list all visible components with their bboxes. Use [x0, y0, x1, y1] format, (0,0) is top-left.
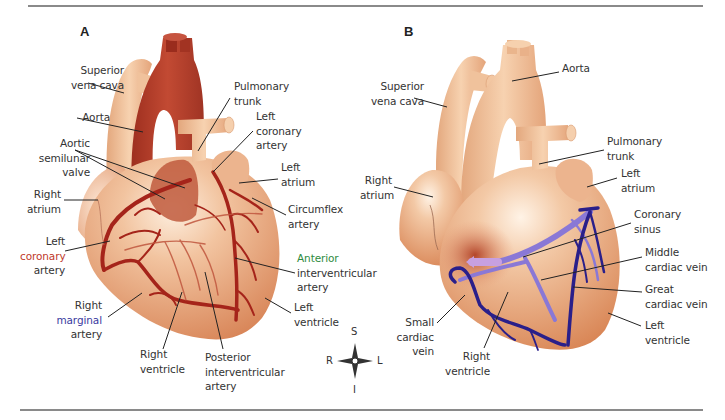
label-line: coronary [256, 124, 316, 139]
compass-superior: S [351, 326, 357, 337]
label-line: ventricle [294, 315, 354, 330]
panel-letter-a: A [80, 24, 89, 39]
label-line: coronary [20, 249, 65, 264]
label-line: atrium [281, 175, 331, 190]
label-line: ventricle [440, 364, 490, 379]
label-line: cardiac vein [645, 297, 725, 312]
label-line: Aorta [38, 110, 110, 125]
label-line: interventricular [297, 266, 387, 281]
label-line: Left [20, 234, 65, 249]
compass-left: L [377, 355, 383, 366]
label-line: Pulmonary [234, 79, 304, 94]
label-right-atrium-b: Rightatrium [360, 173, 392, 202]
label-line: atrium [621, 181, 671, 196]
compass-right: R [326, 355, 333, 366]
label-great-cardiac-vein: Greatcardiac vein [645, 282, 725, 311]
label-middle-cardiac-vein: Middlecardiac vein [645, 245, 725, 274]
label-line: cardiac vein [645, 260, 725, 275]
label-line: artery [256, 138, 316, 153]
label-right-marginal-artery: Rightmarginalartery [40, 298, 102, 342]
label-line: Superior [360, 79, 424, 94]
heart-b [399, 40, 619, 350]
label-small-cardiac-vein: Smallcardiacvein [380, 315, 434, 359]
label-left-coronary-artery-a2: Leftcoronaryartery [256, 109, 316, 153]
label-line: Circumflex [288, 202, 358, 217]
label-line: cardiac [380, 330, 434, 345]
label-line: trunk [607, 149, 677, 164]
label-line: ventricle [140, 362, 200, 377]
label-right-ventricle-a: Rightventricle [140, 347, 200, 376]
label-line: ventricle [645, 333, 705, 348]
label-line: artery [40, 327, 102, 342]
heart-coronary-figure: A B Superiorvena cavaAortaAorticsemiluna… [0, 0, 725, 420]
label-line: marginal [40, 313, 102, 328]
label-line: Anterior [297, 251, 387, 266]
label-line: sinus [634, 222, 694, 237]
label-superior-vena-cava-b: Superiorvena cava [360, 79, 424, 108]
label-superior-vena-cava: Superiorvena cava [38, 63, 124, 92]
label-line: vena cava [360, 94, 424, 109]
label-line: Posterior [205, 350, 295, 365]
label-pulmonary-trunk-a: Pulmonarytrunk [234, 79, 304, 108]
label-coronary-sinus: Coronarysinus [634, 207, 694, 236]
label-line: vein [380, 344, 434, 359]
label-line: Middle [645, 245, 725, 260]
label-pulmonary-trunk-b: Pulmonarytrunk [607, 134, 677, 163]
label-left-ventricle-b: Leftventricle [645, 318, 705, 347]
label-line: trunk [234, 94, 304, 109]
label-line: artery [297, 280, 387, 295]
label-left-ventricle-a: Leftventricle [294, 300, 354, 329]
label-line: vena cava [38, 78, 124, 93]
label-line: valve [15, 165, 90, 180]
label-line: Left [294, 300, 354, 315]
label-line: Left [256, 109, 316, 124]
leader-line [608, 313, 641, 326]
label-line: Aortic [15, 136, 90, 151]
label-line: interventricular [205, 365, 295, 380]
label-left-atrium-b: Leftatrium [621, 166, 671, 195]
label-anterior-interventricular-artery: Anteriorinterventricularartery [297, 251, 387, 295]
label-circumflex-artery: Circumflexartery [288, 202, 358, 231]
orientation-compass-icon [337, 343, 373, 379]
label-line: artery [20, 263, 65, 278]
compass-inferior: I [353, 384, 356, 395]
label-line: artery [288, 217, 358, 232]
label-line: Right [140, 347, 200, 362]
label-aorta: Aorta [38, 110, 110, 125]
label-line: Superior [38, 63, 124, 78]
label-line: Right [15, 187, 61, 202]
label-line: Right [40, 298, 102, 313]
label-line: Aorta [562, 61, 612, 76]
label-line: Right [360, 173, 392, 188]
label-line: atrium [15, 202, 61, 217]
label-line: atrium [360, 188, 392, 203]
label-line: Small [380, 315, 434, 330]
label-right-atrium: Rightatrium [15, 187, 61, 216]
label-line: Left [281, 160, 331, 175]
label-line: Left [645, 318, 705, 333]
label-line: Great [645, 282, 725, 297]
label-aorta-b: Aorta [562, 61, 612, 76]
label-line: artery [205, 379, 295, 394]
label-line: Coronary [634, 207, 694, 222]
label-line: Pulmonary [607, 134, 677, 149]
label-left-coronary-artery-a1: Leftcoronaryartery [20, 234, 65, 278]
label-posterior-interventricular-artery: Posteriorinterventricularartery [205, 350, 295, 394]
label-left-atrium-a: Leftatrium [281, 160, 331, 189]
label-right-ventricle-b: Rightventricle [440, 349, 490, 378]
panel-letter-b: B [404, 24, 413, 39]
label-line: semilunar [15, 151, 90, 166]
label-line: Left [621, 166, 671, 181]
label-line: Right [440, 349, 490, 364]
label-aortic-semilunar-valve: Aorticsemilunarvalve [15, 136, 90, 180]
